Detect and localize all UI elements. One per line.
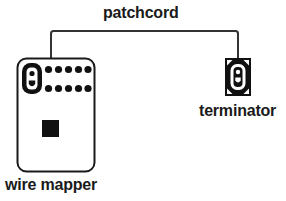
patchcord-label: patchcord [103,5,179,21]
terminator-port [231,64,246,90]
wire-mapper-port [22,63,42,94]
patchcord-cable [51,31,238,60]
led-indicator [65,66,72,73]
wire-mapper-device [18,59,95,172]
led-indicator [45,66,52,73]
led-indicator [84,66,91,73]
led-indicator [75,66,82,73]
port-contact-dot [29,71,34,76]
terminator-device [225,58,251,96]
wire-mapper-label: wire mapper [5,177,97,193]
port-contact-dot [236,70,240,74]
led-indicator [84,85,91,92]
patchcord-path [51,31,238,60]
led-indicator [75,85,82,92]
led-indicator [55,85,62,92]
led-indicator [55,66,62,73]
terminator-label: terminator [199,103,276,119]
diagram-canvas: patchcord wire mapper terminator [0,0,286,201]
wire-mapper-test-button[interactable] [42,120,59,137]
led-indicator [65,85,72,92]
led-indicator [45,85,52,92]
diagram-graphics [0,0,286,201]
